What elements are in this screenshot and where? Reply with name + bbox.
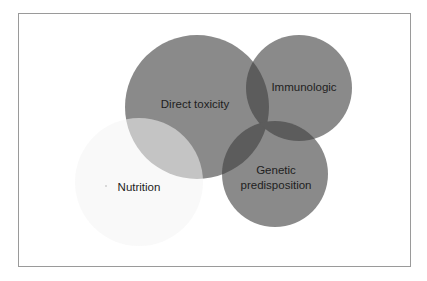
marker-dot — [105, 185, 107, 187]
label-genetic: Genetic — [256, 164, 296, 176]
venn-diagram: Direct toxicity Immunologic Genetic pred… — [0, 0, 427, 281]
label-direct-toxicity: Direct toxicity — [161, 98, 230, 110]
label-predisposition: predisposition — [241, 179, 312, 191]
label-immunologic: Immunologic — [271, 81, 336, 93]
label-nutrition: Nutrition — [118, 181, 161, 193]
